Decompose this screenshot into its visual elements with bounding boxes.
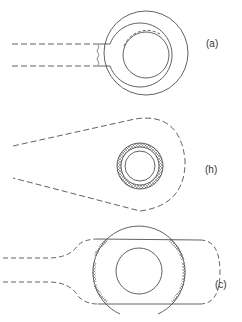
figure-b [13,118,185,211]
inner-circle [125,151,155,181]
dashed-lead-top [3,239,98,258]
label-a: (a) [206,38,218,49]
dashed-end [200,240,220,304]
figure-a [12,11,188,95]
label-b: (h) [205,164,217,175]
label-c: (c) [215,279,227,290]
coil [97,45,99,65]
inner-circle [123,32,169,78]
figure-c [3,226,220,314]
dashed-lead-bottom [3,282,98,304]
dashed-arc [124,30,160,46]
inner-circle [116,248,162,294]
